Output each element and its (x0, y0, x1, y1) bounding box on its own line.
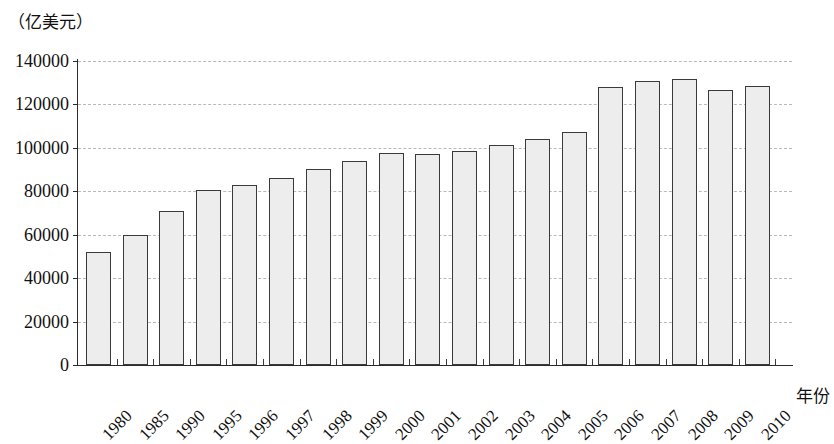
x-axis-tick-label: 2000 (392, 407, 428, 443)
y-axis-tick-label: 100000 (15, 139, 69, 157)
x-axis-tick-label: 1998 (319, 407, 355, 443)
x-axis-tick-label: 2010 (758, 407, 794, 443)
x-axis-line (77, 365, 793, 366)
x-axis-tick-label: 1996 (245, 407, 281, 443)
x-axis-tick-label: 2002 (465, 407, 501, 443)
y-axis-tick-label: 140000 (15, 52, 69, 70)
x-axis-tick-label: 1980 (99, 407, 135, 443)
x-axis-tick-label: 2009 (721, 407, 757, 443)
x-axis-tick-label: 2005 (575, 407, 611, 443)
y-axis-tick-label: 0 (60, 356, 69, 374)
y-axis-tick-label: 80000 (24, 182, 69, 200)
y-axis-tick-label: 120000 (15, 95, 69, 113)
axes (78, 61, 792, 365)
y-axis-tick-label: 40000 (24, 269, 69, 287)
x-axis-tick-label: 2001 (428, 407, 464, 443)
y-axis-unit-caption: （亿美元） (8, 8, 93, 33)
x-axis-tick-label: 2003 (502, 407, 538, 443)
x-axis-tick-label: 1995 (209, 407, 245, 443)
x-axis-tick-label: 1985 (136, 407, 172, 443)
x-axis-tick-label: 2006 (611, 407, 647, 443)
x-axis-tick-label: 1990 (172, 407, 208, 443)
x-axis-title: 年份 (796, 382, 830, 407)
y-axis-line (77, 59, 78, 365)
x-axis-tick-label: 1997 (282, 407, 318, 443)
x-axis-tick-label: 1999 (355, 407, 391, 443)
x-axis-tick-label: 2008 (685, 407, 721, 443)
x-axis-tick-label: 2007 (648, 407, 684, 443)
y-axis-tick-label: 20000 (24, 313, 69, 331)
x-axis-tick-label: 2004 (538, 407, 574, 443)
plot-area: 140000120000100000800006000040000200000 … (78, 61, 792, 365)
y-axis-tick-label: 60000 (24, 226, 69, 244)
